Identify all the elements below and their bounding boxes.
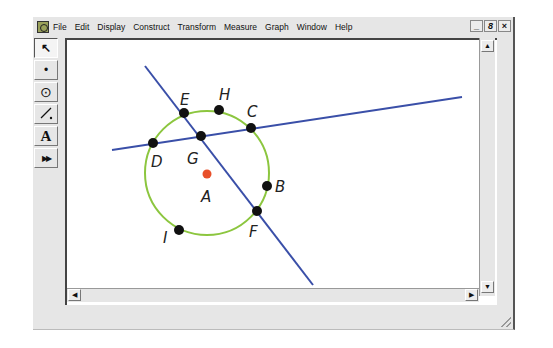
app-icon[interactable] (37, 21, 49, 33)
menu-display[interactable]: Display (97, 22, 125, 32)
label-a: A (200, 188, 211, 206)
straightedge-tool[interactable] (34, 104, 58, 124)
vertical-scrollbar[interactable]: ▲ ▼ (479, 38, 495, 296)
label-b: B (275, 178, 285, 196)
point-f[interactable] (252, 206, 262, 216)
label-e: E (180, 91, 190, 109)
point-icon: • (44, 63, 48, 77)
menu-window[interactable]: Window (297, 22, 327, 32)
selection-arrow-tool[interactable]: ↖ (34, 38, 58, 58)
menu-edit[interactable]: Edit (75, 22, 90, 32)
compass-icon: ⊙ (40, 84, 52, 100)
sketchpad-window: File Edit Display Construct Transform Me… (33, 17, 515, 330)
menu-construct[interactable]: Construct (133, 22, 169, 32)
scroll-up-button[interactable]: ▲ (481, 40, 494, 52)
scroll-right-button[interactable]: ▶ (465, 289, 478, 301)
close-button[interactable]: × (498, 20, 511, 32)
point-tool[interactable]: • (34, 60, 58, 80)
minimize-button[interactable]: _ (470, 20, 483, 32)
geometry-sketch: E H C D G A B F I (67, 40, 481, 290)
scroll-left-button[interactable]: ◀ (68, 289, 81, 301)
point-b[interactable] (262, 181, 272, 191)
point-a[interactable] (203, 170, 212, 179)
restore-button[interactable]: 8 (484, 20, 497, 32)
resize-grip[interactable] (501, 317, 511, 327)
point-e[interactable] (179, 108, 189, 118)
point-h[interactable] (214, 105, 224, 115)
horizontal-scrollbar[interactable]: ◀ ▶ (67, 288, 479, 302)
sketch-canvas[interactable]: E H C D G A B F I (65, 38, 497, 305)
label-f: F (249, 223, 258, 241)
toolbox: ↖ • ⊙ A ▶▶ (34, 38, 61, 170)
menu-help[interactable]: Help (335, 22, 352, 32)
custom-tools-icon: ▶▶ (42, 154, 50, 163)
point-c[interactable] (246, 123, 256, 133)
arrow-icon: ↖ (41, 41, 51, 55)
custom-tool[interactable]: ▶▶ (34, 148, 58, 168)
window-controls: _ 8 × (469, 20, 511, 32)
label-i: I (163, 229, 168, 247)
line-dgc[interactable] (112, 97, 462, 150)
menu-file[interactable]: File (53, 22, 67, 32)
menu-graph[interactable]: Graph (265, 22, 289, 32)
label-c: C (247, 103, 258, 121)
point-i[interactable] (174, 225, 184, 235)
label-h: H (219, 86, 230, 104)
menu-bar: File Edit Display Construct Transform Me… (33, 17, 513, 36)
compass-tool[interactable]: ⊙ (34, 82, 58, 102)
text-icon: A (41, 128, 52, 145)
menu-measure[interactable]: Measure (224, 22, 257, 32)
menu-transform[interactable]: Transform (178, 22, 216, 32)
text-tool[interactable]: A (34, 126, 58, 146)
label-d: D (151, 153, 163, 171)
point-g[interactable] (196, 131, 206, 141)
label-g: G (187, 150, 199, 168)
straightedge-icon (39, 106, 53, 123)
scroll-down-button[interactable]: ▼ (481, 281, 494, 293)
point-d[interactable] (148, 138, 158, 148)
